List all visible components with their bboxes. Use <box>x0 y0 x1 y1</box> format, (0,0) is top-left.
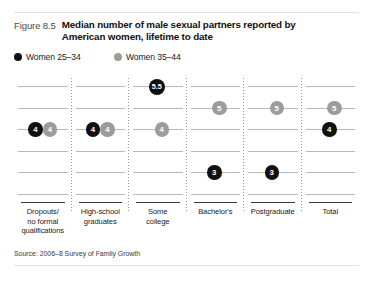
chart-legend: Women 25–34 Women 35–44 <box>14 52 181 62</box>
axis-tick <box>136 202 180 203</box>
chart-category-column: 45 <box>302 78 360 202</box>
axis-category-6: Total <box>302 202 360 217</box>
gridline <box>76 194 126 195</box>
data-point-marker: 3 <box>265 165 280 180</box>
gridline <box>76 151 126 152</box>
gridline <box>133 172 183 173</box>
bottom-divider <box>14 265 359 266</box>
chart-x-axis: Dropouts/no formalqualificationsHigh-sch… <box>14 202 359 248</box>
axis-label-line: Some <box>129 207 187 216</box>
legend-dot-icon-grey <box>114 53 122 61</box>
gridline <box>76 108 126 109</box>
chart-category-column: 44 <box>72 78 130 202</box>
gridline <box>248 151 298 152</box>
gridline <box>18 108 68 109</box>
axis-label: Total <box>302 207 360 216</box>
figure-title-line-1: Median number of male sexual partners re… <box>62 19 296 31</box>
figure-title-line-2: American women, lifetime to date <box>62 31 296 43</box>
gridline <box>133 108 183 109</box>
source-note: Source: 2006–8 Survey of Family Growth <box>14 250 140 257</box>
axis-label: Bachelor's <box>187 207 245 216</box>
axis-tick <box>251 202 295 203</box>
axis-category-2: High-schoolgraduates <box>72 202 130 226</box>
data-point-marker: 4 <box>100 122 115 137</box>
axis-tick <box>21 202 65 203</box>
axis-label-line: no formal <box>14 217 72 226</box>
data-point-marker: 4 <box>86 122 101 137</box>
chart-plot-area: 44445.54353545 <box>14 78 359 202</box>
chart-category-column: 5.54 <box>129 78 187 202</box>
gridline <box>248 129 298 130</box>
axis-label-line: Total <box>302 207 360 216</box>
axis-tick <box>194 202 238 203</box>
legend-item-women-35-44: Women 35–44 <box>114 52 181 62</box>
axis-label-line: High-school <box>72 207 130 216</box>
figure-header: Figure 8.5 Median number of male sexual … <box>14 19 362 44</box>
data-point-marker: 5 <box>270 101 285 116</box>
data-point-marker: 4 <box>322 122 337 137</box>
data-point-marker: 4 <box>43 122 58 137</box>
gridline <box>306 86 356 87</box>
axis-category-5: Postgraduate <box>244 202 302 217</box>
axis-label-line: Postgraduate <box>244 207 302 216</box>
axis-label-line: college <box>129 217 187 226</box>
legend-label-women-25-34: Women 25–34 <box>26 52 81 62</box>
chart-category-column: 44 <box>14 78 72 202</box>
axis-label-line: Dropouts/ <box>14 207 72 216</box>
gridline <box>76 86 126 87</box>
data-point-marker: 3 <box>207 165 222 180</box>
axis-tick <box>79 202 123 203</box>
gridline <box>191 86 241 87</box>
gridline <box>191 194 241 195</box>
gridline <box>18 194 68 195</box>
gridline <box>248 86 298 87</box>
axis-category-3: Somecollege <box>129 202 187 226</box>
chart-category-column: 35 <box>187 78 245 202</box>
chart-category-column: 35 <box>244 78 302 202</box>
axis-label: Dropouts/no formalqualifications <box>14 207 72 235</box>
data-point-marker: 5.5 <box>149 79 165 95</box>
gridline <box>191 129 241 130</box>
axis-label: High-schoolgraduates <box>72 207 130 225</box>
axis-category-1: Dropouts/no formalqualifications <box>14 202 72 235</box>
page-title: Median number of male sexual partners re… <box>62 19 296 44</box>
legend-label-women-35-44: Women 35–44 <box>126 52 181 62</box>
gridline <box>18 86 68 87</box>
gridline <box>248 194 298 195</box>
data-point-marker: 4 <box>28 122 43 137</box>
data-point-marker: 5 <box>327 101 342 116</box>
figure-number: Figure 8.5 <box>14 19 62 31</box>
gridline <box>76 172 126 173</box>
axis-label-line: qualifications <box>14 226 72 235</box>
figure-container: Figure 8.5 Median number of male sexual … <box>0 0 373 282</box>
gridline <box>18 151 68 152</box>
gridline <box>191 151 241 152</box>
axis-label: Postgraduate <box>244 207 302 216</box>
gridline <box>306 151 356 152</box>
gridline <box>306 194 356 195</box>
axis-label-line: Bachelor's <box>187 207 245 216</box>
gridline <box>306 172 356 173</box>
legend-item-women-25-34: Women 25–34 <box>14 52 114 62</box>
axis-label-line: graduates <box>72 217 130 226</box>
gridline <box>133 151 183 152</box>
top-divider <box>14 12 359 13</box>
gridline <box>18 172 68 173</box>
legend-dot-icon-black <box>14 53 22 61</box>
axis-category-4: Bachelor's <box>187 202 245 217</box>
data-point-marker: 5 <box>212 101 227 116</box>
axis-tick <box>309 202 353 203</box>
data-point-marker: 4 <box>155 122 170 137</box>
axis-label: Somecollege <box>129 207 187 225</box>
gridline <box>133 194 183 195</box>
